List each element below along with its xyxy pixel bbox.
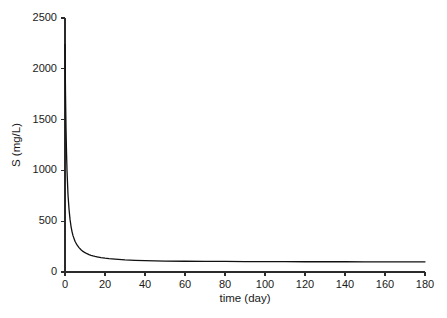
- chart-figure: 05001000150020002500 0204060801001201401…: [0, 0, 447, 318]
- y-tick-label: 1000: [33, 163, 57, 175]
- y-tick-label: 2500: [33, 11, 57, 23]
- y-tick-label: 500: [39, 214, 57, 226]
- y-axis-title: S (mg/L): [10, 123, 22, 167]
- x-tick-label: 60: [179, 278, 191, 290]
- y-tick-label: 0: [51, 265, 57, 277]
- y-tick-label: 1500: [33, 113, 57, 125]
- x-tick-label: 20: [99, 278, 111, 290]
- x-tick-label: 120: [296, 278, 314, 290]
- x-tick-label: 80: [219, 278, 231, 290]
- x-tick-label: 100: [256, 278, 274, 290]
- x-tick-label: 160: [376, 278, 394, 290]
- x-tick-label: 140: [336, 278, 354, 290]
- x-tick-label: 180: [416, 278, 434, 290]
- line-chart: 05001000150020002500 0204060801001201401…: [0, 0, 447, 318]
- x-tick-label: 40: [139, 278, 151, 290]
- y-tick-label: 2000: [33, 62, 57, 74]
- x-axis-title: time (day): [219, 292, 270, 304]
- x-tick-label: 0: [62, 278, 68, 290]
